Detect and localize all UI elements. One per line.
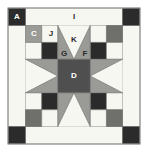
fourpatch-tr-a: [90, 26, 106, 43]
fourpatch-tr-d: [106, 42, 122, 59]
fourpatch-tl-d: [42, 42, 58, 59]
fourpatch-bl-c: [26, 110, 42, 127]
label-F: F: [83, 49, 88, 58]
fourpatch-tr-b: [106, 26, 122, 43]
fourpatch-bl-b: [42, 93, 58, 110]
corner-square-bottom-right: [123, 127, 140, 144]
label-K: K: [71, 35, 77, 44]
quilt-block-diagram: A I C J K G F D: [0, 0, 148, 152]
quilt-block-canvas: A I C J K G F D: [0, 0, 148, 152]
fourpatch-tr-c: [90, 42, 106, 59]
fourpatch-tl-c: [26, 42, 42, 59]
corner-square-top-right: [123, 9, 140, 26]
label-G: G: [61, 49, 67, 58]
fourpatch-bl-a: [26, 93, 42, 110]
fourpatch-br-d: [106, 110, 122, 127]
label-C: C: [31, 29, 37, 38]
fourpatch-br-b: [106, 93, 122, 110]
label-D: D: [71, 71, 77, 80]
fourpatch-br-a: [90, 93, 106, 110]
label-A: A: [14, 12, 20, 21]
fourpatch-bl-d: [42, 110, 58, 127]
label-I: I: [73, 12, 75, 21]
corner-square-bottom-left: [9, 127, 26, 144]
fourpatch-br-c: [90, 110, 106, 127]
label-J: J: [49, 29, 53, 38]
